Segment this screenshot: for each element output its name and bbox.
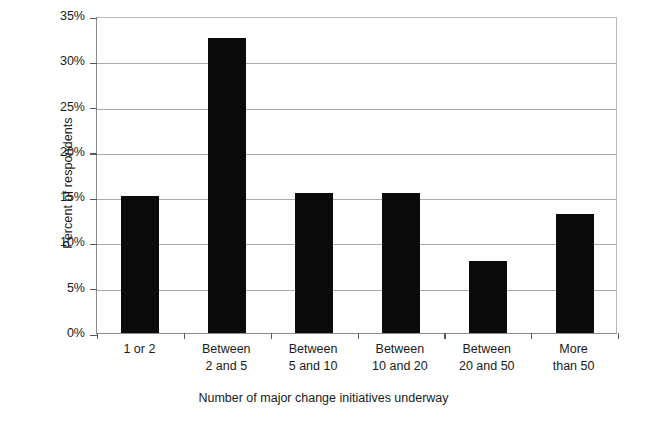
x-axis-label-line: More — [530, 341, 617, 358]
x-axis-label-line: 20 and 50 — [443, 358, 530, 375]
bar — [295, 193, 333, 333]
x-tick-mark — [444, 333, 445, 339]
x-axis-label: Between5 and 10 — [270, 341, 357, 374]
bar — [469, 261, 507, 333]
bar-slot — [184, 18, 271, 333]
x-axis-label-line: than 50 — [530, 358, 617, 375]
x-tick-mark — [97, 333, 98, 339]
x-axis-title: Number of major change initiatives under… — [0, 391, 647, 405]
x-tick-mark — [358, 333, 359, 339]
bar-slot — [444, 18, 531, 333]
x-axis-label: 1 or 2 — [96, 341, 183, 358]
bar-slot — [97, 18, 184, 333]
bar — [208, 38, 246, 333]
bar-slot — [271, 18, 358, 333]
x-axis-label: Morethan 50 — [530, 341, 617, 374]
bar — [382, 193, 420, 333]
bar-chart-figure: Percent of respondents 0%5%10%15%20%25%3… — [0, 0, 647, 427]
x-tick-mark — [184, 333, 185, 339]
y-tick-label: 30% — [60, 54, 85, 68]
y-tick-label: 15% — [60, 190, 85, 204]
plot-area: 0%5%10%15%20%25%30%35% — [96, 17, 617, 334]
y-tick-label: 35% — [60, 9, 85, 23]
y-tick-mark — [90, 63, 97, 64]
x-axis-category-labels: 1 or 2Between2 and 5Between5 and 10Betwe… — [96, 341, 617, 383]
y-tick-mark — [90, 244, 97, 245]
bars-layer — [97, 18, 616, 333]
x-axis-label: Between20 and 50 — [443, 341, 530, 374]
x-axis-label-line: Between — [183, 341, 270, 358]
x-axis-label-line: 5 and 10 — [270, 358, 357, 375]
bar-slot — [531, 18, 618, 333]
bar — [556, 214, 594, 333]
y-tick-mark — [90, 199, 97, 200]
y-tick-label: 0% — [67, 326, 85, 340]
x-axis-label-line: 2 and 5 — [183, 358, 270, 375]
x-axis-label-line: Between — [270, 341, 357, 358]
y-tick-mark — [90, 289, 97, 290]
y-tick-mark — [90, 153, 97, 154]
y-tick-label: 5% — [67, 281, 85, 295]
y-tick-label: 10% — [60, 235, 85, 249]
x-axis-label-line: 10 and 20 — [357, 358, 444, 375]
x-tick-mark — [618, 333, 619, 339]
x-tick-mark — [531, 333, 532, 339]
y-gridline: 0% — [97, 335, 616, 336]
bar-slot — [358, 18, 445, 333]
y-tick-mark — [90, 335, 97, 336]
y-tick-label: 25% — [60, 100, 85, 114]
x-axis-label: Between10 and 20 — [357, 341, 444, 374]
x-tick-mark — [271, 333, 272, 339]
y-tick-label: 20% — [60, 145, 85, 159]
x-axis-label-line: Between — [357, 341, 444, 358]
y-tick-mark — [90, 18, 97, 19]
x-axis-label-line: 1 or 2 — [96, 341, 183, 358]
x-axis-label: Between2 and 5 — [183, 341, 270, 374]
x-axis-label-line: Between — [443, 341, 530, 358]
y-tick-mark — [90, 108, 97, 109]
bar — [121, 196, 159, 333]
